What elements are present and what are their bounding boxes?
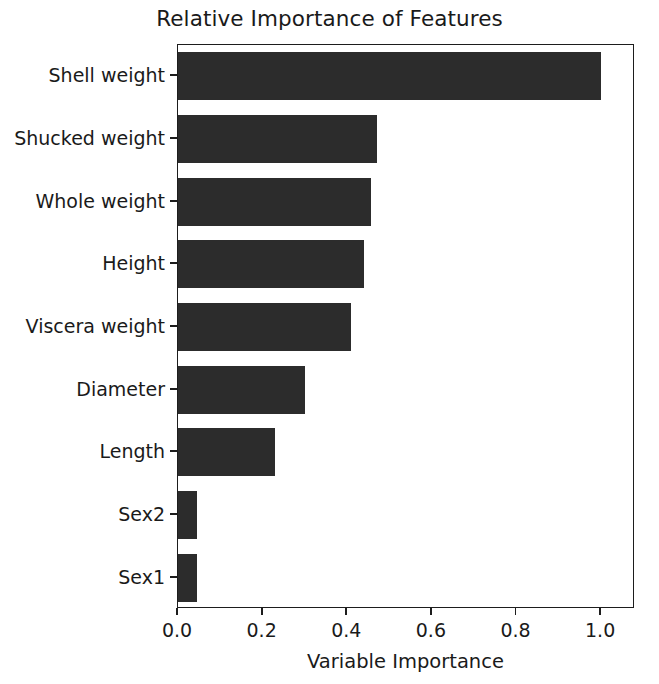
x-tick-mark bbox=[345, 608, 347, 615]
y-tick-label: Whole weight bbox=[35, 190, 165, 212]
bar bbox=[178, 428, 275, 476]
y-tick-mark bbox=[170, 450, 177, 452]
y-tick-label: Sex2 bbox=[118, 503, 165, 525]
y-tick-mark bbox=[170, 74, 177, 76]
y-tick-label: Length bbox=[99, 440, 165, 462]
x-tick-mark bbox=[261, 608, 263, 615]
bar bbox=[178, 178, 371, 226]
x-tick-label: 0.0 bbox=[162, 619, 192, 641]
y-tick-label: Height bbox=[102, 252, 165, 274]
y-tick-label: Viscera weight bbox=[26, 315, 165, 337]
chart-figure: Relative Importance of Features Shell we… bbox=[0, 0, 659, 684]
y-tick-mark bbox=[170, 513, 177, 515]
y-tick-mark bbox=[170, 200, 177, 202]
chart-title: Relative Importance of Features bbox=[0, 6, 659, 31]
x-tick-label: 0.6 bbox=[416, 619, 446, 641]
bars-layer bbox=[178, 45, 633, 607]
y-tick-label: Sex1 bbox=[118, 566, 165, 588]
x-tick-label: 0.2 bbox=[247, 619, 277, 641]
x-tick-mark bbox=[515, 608, 517, 615]
bar bbox=[178, 115, 377, 163]
y-tick-mark bbox=[170, 137, 177, 139]
bar bbox=[178, 491, 197, 539]
y-tick-label: Diameter bbox=[76, 378, 165, 400]
y-tick-label: Shucked weight bbox=[14, 127, 165, 149]
y-tick-mark bbox=[170, 388, 177, 390]
x-tick-mark bbox=[430, 608, 432, 615]
y-tick-mark bbox=[170, 325, 177, 327]
x-tick-label: 0.4 bbox=[331, 619, 361, 641]
x-tick-label: 0.8 bbox=[500, 619, 530, 641]
y-tick-mark bbox=[170, 262, 177, 264]
bar bbox=[178, 554, 197, 602]
x-tick-mark bbox=[599, 608, 601, 615]
bar bbox=[178, 303, 351, 351]
y-tick-mark bbox=[170, 576, 177, 578]
x-tick-label: 1.0 bbox=[585, 619, 615, 641]
x-tick-mark bbox=[176, 608, 178, 615]
bar bbox=[178, 366, 305, 414]
plot-area bbox=[177, 44, 634, 608]
y-tick-label: Shell weight bbox=[49, 64, 165, 86]
x-axis-label: Variable Importance bbox=[177, 650, 634, 673]
bar bbox=[178, 240, 364, 288]
bar bbox=[178, 52, 601, 100]
